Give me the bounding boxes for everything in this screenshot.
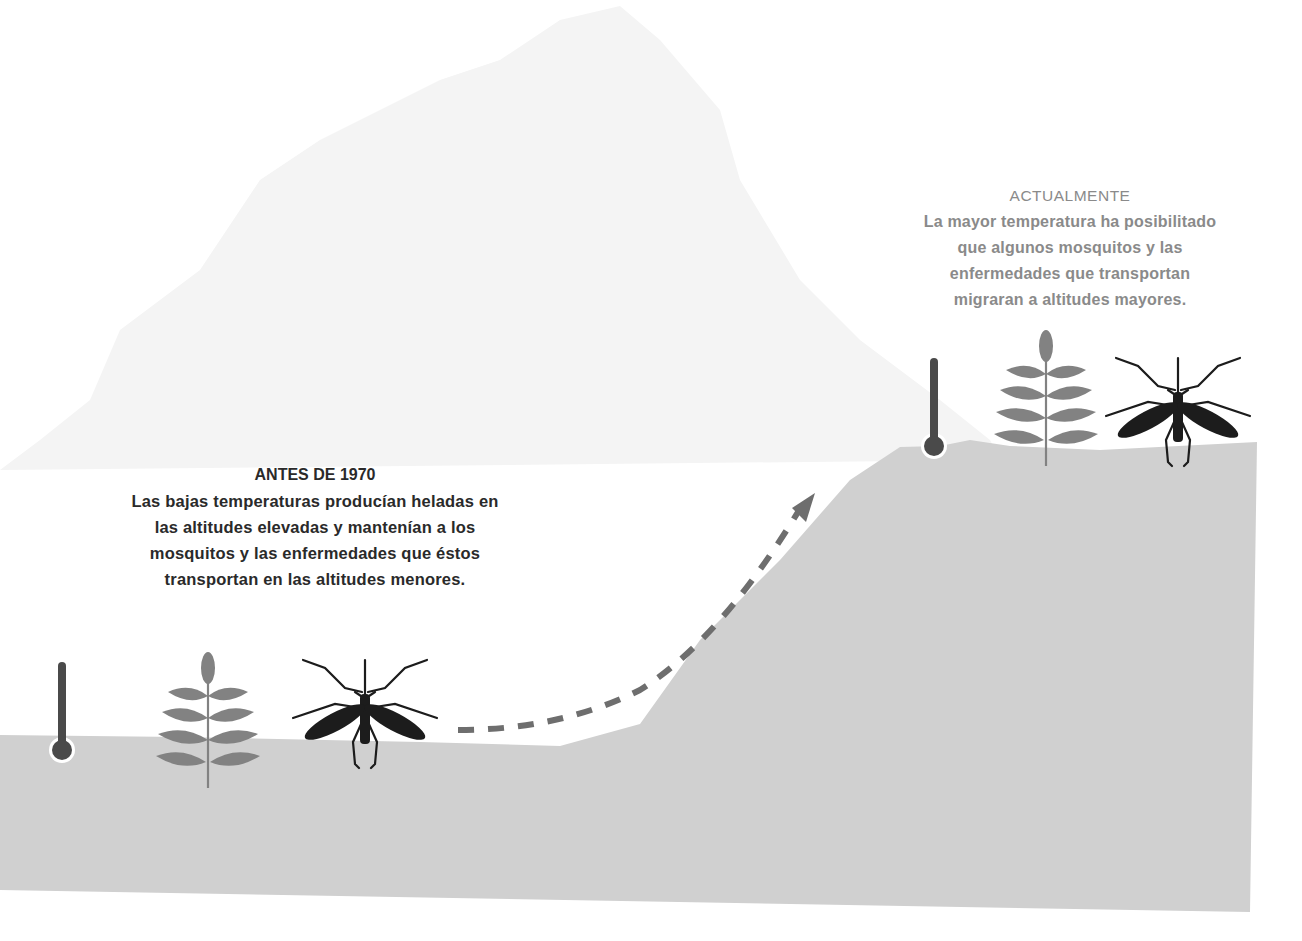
plant-icon-high: [994, 330, 1098, 466]
caption-before-line: las altitudes elevadas y mantenían a los: [90, 514, 540, 540]
caption-before-title: ANTES DE 1970: [90, 462, 540, 488]
thermometer-icon-low: [49, 662, 75, 763]
caption-now-line: migraran a altitudes mayores.: [880, 287, 1260, 313]
caption-actualmente: ACTUALMENTE La mayor temperatura ha posi…: [880, 183, 1260, 313]
mountain-silhouette: [0, 6, 1000, 470]
caption-now-title: ACTUALMENTE: [880, 183, 1260, 209]
caption-now-line: La mayor temperatura ha posibilitado: [880, 209, 1260, 235]
caption-now-line: enfermedades que transportan: [880, 261, 1260, 287]
caption-before-line: Las bajas temperaturas producían heladas…: [90, 488, 540, 514]
caption-before-line: transportan en las altitudes menores.: [90, 566, 540, 592]
caption-before-1970: ANTES DE 1970 Las bajas temperaturas pro…: [90, 462, 540, 592]
caption-now-line: que algunos mosquitos y las: [880, 235, 1260, 261]
caption-before-line: mosquitos y las enfermedades que éstos: [90, 540, 540, 566]
